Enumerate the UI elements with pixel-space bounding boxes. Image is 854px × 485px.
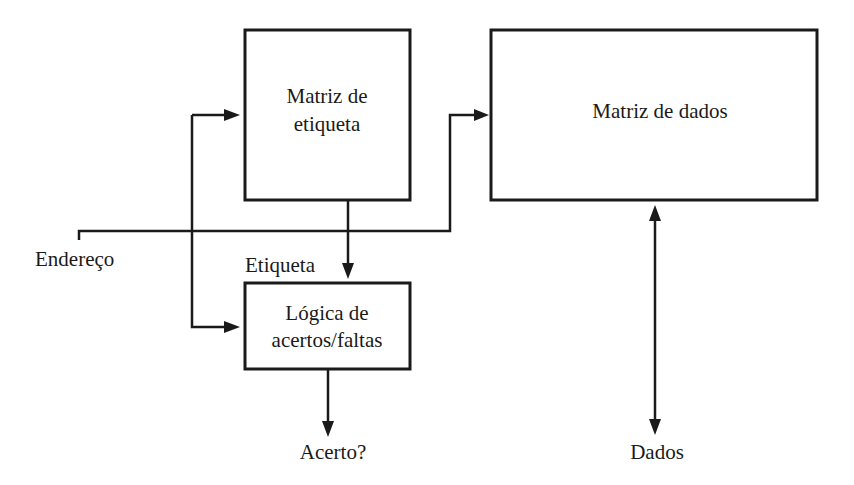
arrowhead-to-tag-array xyxy=(224,109,240,121)
arrowhead-data-up xyxy=(649,205,661,221)
address-label: Endereço xyxy=(35,247,114,271)
address-branch xyxy=(192,109,240,333)
arrowhead-to-data-array xyxy=(474,109,489,121)
cache-diagram: Matriz de etiqueta Matriz de dados Lógic… xyxy=(0,0,854,485)
arrowhead-hit-down xyxy=(322,421,334,437)
data-array-label: Matriz de dados xyxy=(592,99,727,123)
hit-arrow xyxy=(322,369,334,437)
hit-miss-logic-label-line2: acertos/faltas xyxy=(272,328,383,352)
tag-array-label-line2: etiqueta xyxy=(294,112,361,136)
tag-array-label-line1: Matriz de xyxy=(286,84,367,108)
hit-miss-logic-label-line1: Lógica de xyxy=(285,301,368,325)
arrowhead-tag-down xyxy=(342,263,354,279)
hit-miss-logic-block xyxy=(245,283,410,369)
tag-label: Etiqueta xyxy=(245,253,316,277)
hit-label: Acerto? xyxy=(300,440,366,464)
tag-arrow xyxy=(342,200,354,279)
arrowhead-to-logic xyxy=(224,321,240,333)
arrowhead-data-down xyxy=(649,419,661,435)
data-label: Dados xyxy=(630,440,684,464)
data-arrow xyxy=(649,205,661,435)
